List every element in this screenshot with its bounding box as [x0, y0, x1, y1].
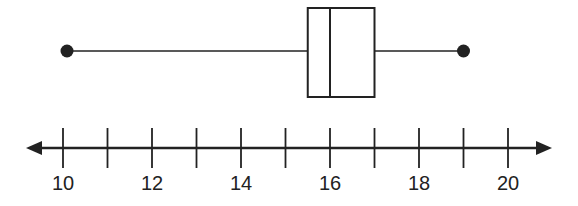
tick-label: 16 — [319, 172, 341, 194]
right-arrow-icon — [536, 141, 552, 155]
maximum-point — [457, 45, 470, 58]
tick-label: 10 — [52, 172, 74, 194]
tick-label: 18 — [408, 172, 430, 194]
tick-label: 12 — [141, 172, 163, 194]
iqr-box — [308, 8, 375, 97]
minimum-point — [61, 45, 74, 58]
tick-label: 14 — [230, 172, 252, 194]
box-plot-svg: 101214161820 — [0, 0, 578, 206]
left-arrow-icon — [26, 141, 42, 155]
box-plot-chart: 101214161820 — [0, 0, 578, 206]
number-line: 101214161820 — [26, 128, 552, 194]
tick-label: 20 — [497, 172, 519, 194]
box-and-whisker — [61, 8, 471, 97]
